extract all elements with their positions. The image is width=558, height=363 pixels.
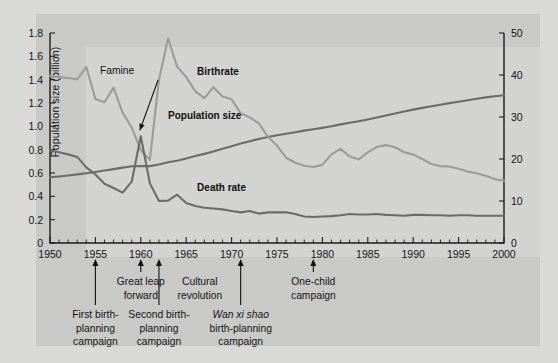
x-tick-label: 1960 bbox=[129, 248, 153, 260]
series-label-population-size: Population size bbox=[168, 110, 242, 121]
annotation-wan-xi-shao-birth-planning-campaign-line-0: Wan xi shao bbox=[212, 309, 269, 320]
annotation-cultural-revolution-line-0: Cultural bbox=[182, 276, 217, 287]
annotation-first-birth-planning-campaign-line-0: First birth- bbox=[72, 309, 118, 320]
y-tick-left-label: 0 bbox=[37, 237, 43, 249]
annotation-famine-arrowhead bbox=[139, 123, 144, 130]
x-tick-label: 1985 bbox=[356, 248, 380, 260]
y-tick-right-label: 10 bbox=[511, 195, 523, 207]
y-tick-left-label: 1.8 bbox=[28, 27, 43, 39]
annotation-wan-xi-shao-birth-planning-campaign-line-1: birth-planning bbox=[209, 323, 272, 334]
annotation-arrowhead-second-birth-planning-campaign bbox=[156, 259, 162, 266]
chart-panel: Population size (billion) Births/deaths … bbox=[36, 14, 540, 346]
figure-container: Population size (billion) Births/deaths … bbox=[0, 0, 558, 363]
annotation-cultural-revolution-line-1: revolution bbox=[177, 290, 222, 301]
y-tick-left-label: 0.8 bbox=[28, 144, 43, 156]
annotation-arrowhead-great-leap-forward bbox=[138, 259, 144, 266]
annotation-second-birth-planning-campaign-line-2: campaign bbox=[137, 336, 182, 347]
y-tick-left-label: 0.6 bbox=[28, 167, 43, 179]
annotation-second-birth-planning-campaign-line-1: planning bbox=[139, 323, 178, 334]
series-labels-layer: Population sizeBirthrateDeath rate bbox=[168, 66, 246, 193]
annotation-arrowhead-first-birth-planning-campaign bbox=[92, 259, 98, 266]
x-tick-label: 1965 bbox=[175, 248, 199, 260]
y-tick-left-label: 0.4 bbox=[28, 190, 43, 202]
annotation-wan-xi-shao-birth-planning-campaign-line-2: campaign bbox=[218, 336, 263, 347]
x-tick-label: 1970 bbox=[220, 248, 244, 260]
annotation-second-birth-planning-campaign-line-0: Second birth- bbox=[128, 309, 189, 320]
annotation-first-birth-planning-campaign-line-1: planning bbox=[76, 323, 115, 334]
annotation-famine-label: Famine bbox=[100, 65, 135, 76]
series-line-birthrate bbox=[50, 38, 504, 180]
annotation-one-child-campaign-line-0: One-child bbox=[291, 276, 335, 287]
y-tick-left-label: 1.4 bbox=[28, 74, 43, 86]
chart-svg: 1950195519601965197019751980198519901995… bbox=[36, 14, 540, 346]
y-tick-left-label: 0.2 bbox=[28, 214, 43, 226]
x-tick-label: 1990 bbox=[402, 248, 426, 260]
y-tick-right-label: 0 bbox=[511, 237, 517, 249]
y-tick-right-label: 40 bbox=[511, 69, 523, 81]
x-tick-label: 1950 bbox=[38, 248, 62, 260]
x-tick-label: 1980 bbox=[311, 248, 335, 260]
y-tick-left-label: 1.6 bbox=[28, 50, 43, 62]
y-tick-left-label: 1.2 bbox=[28, 97, 43, 109]
annotation-arrowhead-wan-xi-shao-birth-planning-campaign bbox=[238, 259, 244, 266]
series-label-birthrate: Birthrate bbox=[197, 66, 239, 77]
series-label-death-rate: Death rate bbox=[197, 182, 246, 193]
annotation-arrowhead-one-child-campaign bbox=[310, 259, 316, 266]
series-line-death-rate bbox=[50, 136, 504, 217]
annotation-first-birth-planning-campaign-line-2: campaign bbox=[73, 336, 118, 347]
y-tick-right-label: 30 bbox=[511, 111, 523, 123]
y-tick-right-label: 20 bbox=[511, 153, 523, 165]
x-tick-label: 1995 bbox=[447, 248, 471, 260]
y-tick-left-label: 1.0 bbox=[28, 120, 43, 132]
x-tick-label: 1955 bbox=[84, 248, 108, 260]
x-tick-label: 1975 bbox=[265, 248, 289, 260]
annotation-great-leap-forward-line-0: Great leap bbox=[117, 276, 165, 287]
x-tick-label: 2000 bbox=[492, 248, 516, 260]
annotation-great-leap-forward-line-1: forward bbox=[124, 290, 159, 301]
annotations-layer: FamineGreat leapforwardCulturalrevolutio… bbox=[72, 65, 336, 347]
annotation-one-child-campaign-line-1: campaign bbox=[291, 290, 336, 301]
y-tick-right-label: 50 bbox=[511, 27, 523, 39]
